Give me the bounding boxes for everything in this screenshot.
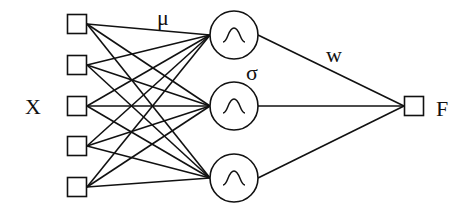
connection-line: [87, 24, 210, 35]
connection-line: [87, 106, 210, 178]
connection-line: [87, 106, 210, 187]
center-label: μ: [157, 5, 169, 30]
input-node: [68, 15, 87, 34]
input-hidden-connections: [87, 24, 210, 187]
input-node: [68, 178, 87, 197]
connection-line: [87, 35, 210, 146]
input-layer: [68, 15, 87, 197]
input-node: [68, 97, 87, 116]
input-node: [68, 56, 87, 75]
weight-line: [258, 106, 404, 178]
output-layer: [405, 97, 424, 116]
output-label: F: [436, 96, 448, 121]
rbf-node: [210, 11, 258, 59]
hidden-layer: [210, 11, 258, 202]
connection-line: [87, 24, 210, 106]
width-label: σ: [246, 60, 258, 85]
connection-line: [87, 35, 210, 187]
connection-line: [87, 65, 210, 178]
output-node: [405, 97, 424, 116]
connection-line: [87, 24, 210, 178]
connection-line: [87, 35, 210, 65]
rbf-network-diagram: X μ σ w F: [0, 0, 473, 216]
input-label: X: [25, 94, 41, 119]
connection-line: [87, 178, 210, 187]
weight-label: w: [326, 42, 342, 67]
rbf-node: [210, 154, 258, 202]
input-node: [68, 137, 87, 156]
rbf-node: [210, 82, 258, 130]
